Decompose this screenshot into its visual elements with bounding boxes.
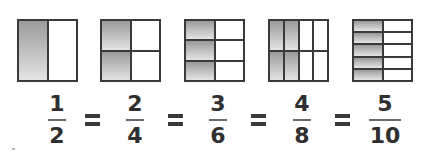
shaded-part	[353, 32, 383, 44]
fraction-model-4-8	[268, 19, 329, 82]
denominator: 2	[37, 125, 77, 147]
unshaded-part	[383, 57, 413, 69]
fraction-bar	[48, 119, 66, 121]
fraction-bar	[126, 119, 144, 121]
unshaded-part	[48, 20, 78, 81]
fraction-model-3-6	[184, 19, 245, 82]
numerator: 2	[115, 93, 155, 115]
fraction-label: 48	[282, 93, 322, 147]
denominator: 4	[115, 125, 155, 147]
unshaded-part	[313, 20, 328, 51]
numerator: 3	[198, 93, 238, 115]
shaded-part	[353, 69, 383, 81]
unshaded-part	[299, 20, 314, 51]
shaded-part	[185, 61, 215, 81]
unshaded-part	[383, 32, 413, 44]
denominator: 6	[198, 125, 238, 147]
fraction-model-2-4	[100, 19, 161, 82]
fraction-label: 12	[37, 93, 77, 147]
fraction-bar	[293, 119, 311, 121]
unshaded-part	[383, 20, 413, 32]
shaded-part	[284, 20, 299, 51]
unshaded-part	[131, 20, 161, 51]
fraction-label: 24	[115, 93, 155, 147]
unshaded-part	[383, 69, 413, 81]
unshaded-part	[215, 20, 245, 40]
fraction-label: 36	[198, 93, 238, 147]
numerator: 4	[282, 93, 322, 115]
denominator: 10	[365, 125, 405, 147]
unshaded-part	[215, 61, 245, 81]
equals-sign	[251, 114, 266, 127]
equals-sign	[335, 114, 350, 127]
stray-mark	[12, 148, 15, 150]
shaded-part	[353, 57, 383, 69]
shaded-part	[284, 51, 299, 82]
fraction-bar	[209, 119, 227, 121]
denominator: 8	[282, 125, 322, 147]
fraction-label: 510	[365, 93, 405, 147]
equals-sign	[85, 114, 100, 127]
fraction-model-1-2	[17, 19, 78, 82]
shaded-part	[18, 20, 48, 81]
unshaded-part	[313, 51, 328, 82]
shaded-part	[269, 51, 284, 82]
numerator: 1	[37, 93, 77, 115]
unshaded-part	[131, 51, 161, 82]
unshaded-part	[383, 44, 413, 56]
numerator: 5	[365, 93, 405, 115]
fraction-bar	[369, 119, 401, 121]
shaded-part	[101, 51, 131, 82]
shaded-part	[353, 44, 383, 56]
shaded-part	[185, 20, 215, 40]
shaded-part	[101, 20, 131, 51]
shaded-part	[269, 20, 284, 51]
unshaded-part	[299, 51, 314, 82]
unshaded-part	[215, 40, 245, 60]
shaded-part	[185, 40, 215, 60]
fraction-model-5-10	[352, 19, 413, 82]
shaded-part	[353, 20, 383, 32]
equals-sign	[168, 114, 183, 127]
